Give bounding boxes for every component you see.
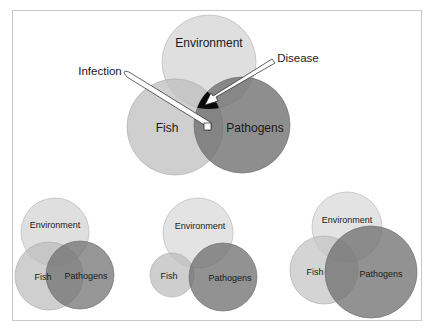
venn-figure: Environment Fish Pathogens Infection Dis… <box>0 0 433 333</box>
environment-label: Environment <box>30 220 81 230</box>
fish-label: Fish <box>34 272 51 282</box>
small-venn-middle: Environment Fish Pathogens <box>150 198 257 311</box>
main-venn-diagram: Environment Fish Pathogens Infection Dis… <box>78 15 319 175</box>
pathogens-label: Pathogens <box>226 121 283 135</box>
fish-label: Fish <box>156 121 179 135</box>
environment-label: Environment <box>175 36 243 50</box>
small-venn-left: Environment Fish Pathogens <box>15 198 114 310</box>
environment-label: Environment <box>175 221 226 231</box>
fish-label: Fish <box>306 267 323 277</box>
pathogens-label: Pathogens <box>208 273 252 283</box>
fish-label: Fish <box>160 271 177 281</box>
small-venn-right: Environment Fish Pathogens <box>290 192 417 318</box>
infection-label: Infection <box>78 65 121 77</box>
environment-label: Environment <box>322 215 373 225</box>
disease-label: Disease <box>277 52 319 64</box>
pathogens-label: Pathogens <box>64 271 108 281</box>
pathogens-label: Pathogens <box>359 269 403 279</box>
